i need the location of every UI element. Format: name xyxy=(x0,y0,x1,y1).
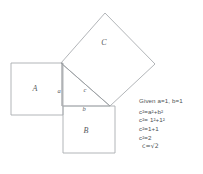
square-a-label: A xyxy=(32,84,38,93)
square-b-label: B xyxy=(84,126,89,135)
step-2-text: c²= 1²+1² xyxy=(139,116,165,123)
side-label-c: c xyxy=(84,86,87,93)
derivation-step-3: c²=1+1 xyxy=(139,125,203,134)
square-b-outline xyxy=(63,106,115,153)
derivation-step-1: c²=a²+b² xyxy=(139,108,203,117)
derivation-step-4: c²=2 xyxy=(139,134,203,143)
step-3-text: c²=1+1 xyxy=(139,125,159,132)
derivation-text-block: Given a=1, b=1 c²=a²+b² c²= 1²+1² c²=1+1… xyxy=(139,97,203,151)
side-label-a: a xyxy=(57,87,60,94)
triangle-hypotenuse xyxy=(61,63,110,106)
square-c-label: C xyxy=(101,38,107,47)
square-c-outline xyxy=(61,13,155,106)
given-line: Given a=1, b=1 xyxy=(139,97,203,106)
step-1-text: c²=a²+b² xyxy=(139,108,163,115)
derivation-step-2: c²= 1²+1² xyxy=(139,116,203,125)
derivation-step-5: c=√2 xyxy=(139,142,203,151)
pythagorean-theorem-figure: A B C a b c Given a=1, b=1 c²=a²+b² c²= … xyxy=(0,0,203,174)
step-4-text: c²=2 xyxy=(139,134,152,141)
step-5-text: c=√2 xyxy=(142,142,159,149)
